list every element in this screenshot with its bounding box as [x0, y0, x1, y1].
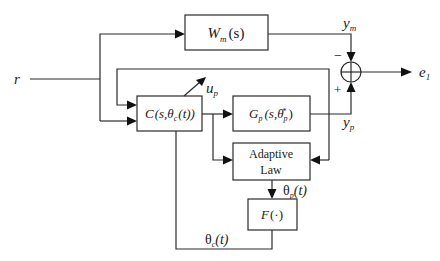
svg-text:Gp(s,θ*p): Gp(s,θ*p): [249, 106, 293, 123]
svg-text:C(s,θc(t)): C(s,θc(t)): [145, 106, 195, 123]
control-to-adaptive-law-line: [213, 114, 224, 160]
arrow-into-controller-feedback-icon: [127, 101, 137, 110]
arrow-into-reference-model-icon: [175, 30, 185, 39]
plant-param-subscript: p: [283, 114, 288, 123]
arrow-into-sum-plus-icon: [347, 82, 356, 92]
adaptive-law-block: Adaptive Law: [233, 143, 310, 180]
arrow-into-plant-icon: [223, 110, 233, 119]
error-signal-label: e1: [419, 64, 430, 82]
model-output-label: ym: [341, 15, 357, 33]
control-signal-label: up: [206, 80, 219, 98]
controller-subscript: c: [174, 114, 178, 123]
arrow-into-sum-minus-icon: [347, 52, 356, 62]
adaptive-law-label-line1: Adaptive: [249, 147, 293, 161]
plant-close-paren: ): [289, 106, 293, 121]
mapping-block: F(·): [248, 199, 297, 230]
controller-symbol: C: [145, 106, 154, 121]
arrow-into-mapping-icon: [268, 189, 277, 199]
arrow-into-adaptive-law-left-icon: [223, 156, 233, 165]
reference-signal-label: r: [14, 71, 20, 87]
plant-args: (s,θ: [265, 106, 285, 121]
plus-sign: +: [334, 82, 341, 97]
summing-junction: [341, 62, 361, 82]
reference-model-argument: (s): [229, 25, 245, 42]
minus-sign: −: [334, 48, 342, 63]
controller-time-arg: (t)): [178, 106, 195, 121]
mapping-argument: (·): [270, 207, 283, 222]
mapping-symbol: F: [260, 207, 270, 222]
arrow-into-controller-r-icon: [127, 117, 137, 126]
reference-model-block: Wm(s): [185, 15, 268, 50]
theta-p-label: θp(t): [283, 183, 307, 200]
svg-text:F(·): F(·): [260, 207, 283, 222]
plant-block: Gp(s,θ*p): [233, 96, 310, 131]
plant-subscript: p: [258, 114, 263, 123]
theta-c-label: θc(t): [205, 232, 229, 249]
arrow-into-adaptive-law-right-icon: [310, 156, 320, 165]
adaptive-law-label-line2: Law: [260, 163, 282, 177]
plant-output-line: [310, 90, 351, 114]
arrow-error-output-icon: [401, 68, 412, 77]
controller-block: C(s,θc(t)): [137, 96, 202, 131]
reference-model-subscript: m: [220, 34, 227, 44]
controller-args: (s,θ: [155, 106, 175, 121]
adjustable-parameter-arrow-line: [184, 82, 200, 96]
block-diagram: r Wm(s) ym − e1 C(s,θc(t)): [0, 0, 440, 261]
plant-output-label: yp: [341, 114, 355, 132]
